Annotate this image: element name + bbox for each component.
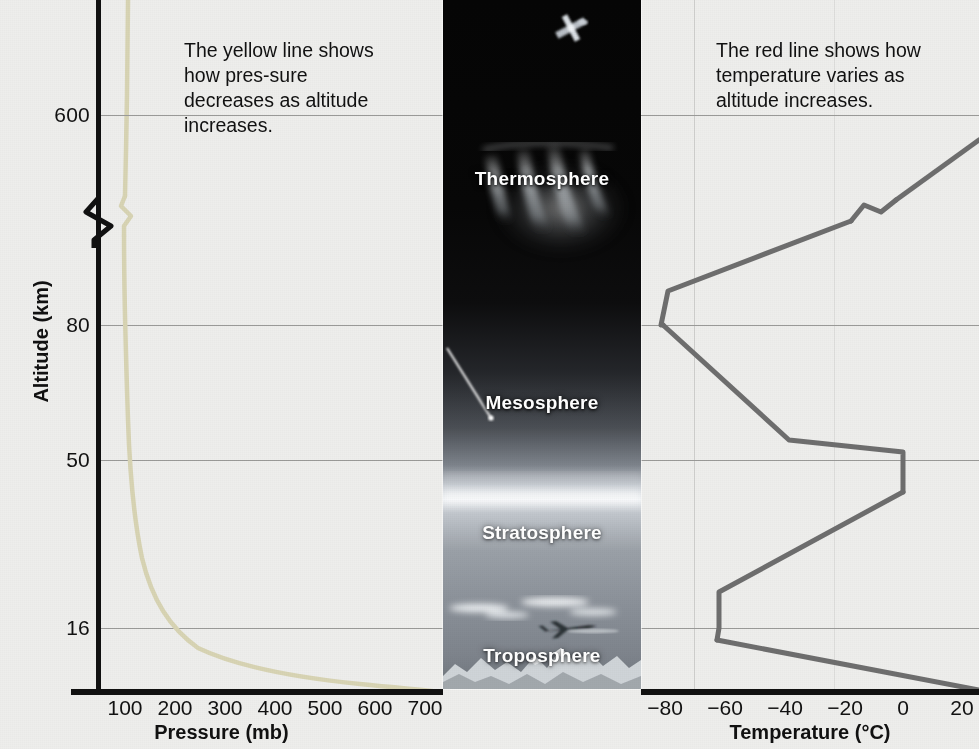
callout-pressure-note: The yellow line shows how pres-sure decr… bbox=[184, 38, 392, 138]
callout-temperature-note: The red line shows how temperature varie… bbox=[716, 38, 941, 113]
y-axis-break-icon bbox=[80, 186, 126, 248]
x-tick-temperature-minus80: −80 bbox=[647, 696, 683, 720]
layer-label-thermosphere: Thermosphere bbox=[443, 168, 641, 190]
y-tick-50: 50 bbox=[38, 448, 90, 472]
y-axis-title: Altitude (km) bbox=[30, 267, 53, 417]
x-tick-temperature-minus20: −20 bbox=[827, 696, 863, 720]
layer-label-mesosphere: Mesosphere bbox=[443, 392, 641, 414]
x-tick-temperature-minus60: −60 bbox=[707, 696, 743, 720]
x-tick-pressure-200: 200 bbox=[157, 696, 192, 720]
x-tick-temperature-0: 0 bbox=[897, 696, 909, 720]
x-tick-pressure-600: 600 bbox=[357, 696, 392, 720]
airglow-band bbox=[443, 486, 641, 508]
x-tick-pressure-500: 500 bbox=[307, 696, 342, 720]
callout-leader-left bbox=[101, 115, 183, 116]
x-axis-title-pressure: Pressure (mb) bbox=[0, 721, 443, 744]
layer-label-stratosphere: Stratosphere bbox=[443, 522, 641, 544]
x-axis-title-temperature: Temperature (°C) bbox=[641, 721, 979, 744]
x-tick-pressure-100: 100 bbox=[107, 696, 142, 720]
x-tick-pressure-300: 300 bbox=[207, 696, 242, 720]
layer-label-troposphere: Troposphere bbox=[443, 645, 641, 667]
callout-leader-right bbox=[641, 115, 713, 116]
y-tick-16: 16 bbox=[38, 616, 90, 640]
x-tick-pressure-700: 700 bbox=[407, 696, 442, 720]
x-tick-temperature-20: 20 bbox=[950, 696, 973, 720]
atmosphere-photo-strip: Thermosphere Mesosphere Stratosphere Tro… bbox=[443, 0, 641, 689]
x-axis-pressure-line bbox=[71, 689, 443, 695]
atmosphere-figure: Thermosphere Mesosphere Stratosphere Tro… bbox=[0, 0, 979, 749]
y-axis-line bbox=[96, 0, 101, 694]
x-axis-temperature-line bbox=[641, 689, 979, 695]
y-tick-600: 600 bbox=[38, 103, 90, 127]
x-tick-temperature-minus40: −40 bbox=[767, 696, 803, 720]
x-tick-pressure-400: 400 bbox=[257, 696, 292, 720]
